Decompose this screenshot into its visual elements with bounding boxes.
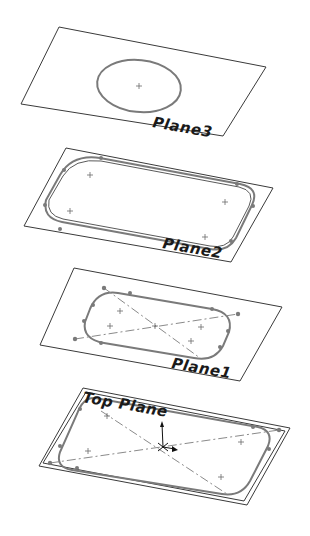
plane-2-outline bbox=[24, 148, 273, 262]
plane-3-outline bbox=[21, 27, 266, 136]
rounded-rectangle-inner bbox=[49, 161, 251, 247]
plane-3-label: Plane3 bbox=[151, 113, 214, 141]
cross-marks-icon bbox=[67, 172, 228, 240]
plane-2[interactable]: Plane2 bbox=[24, 148, 273, 262]
center-mark-icon bbox=[136, 83, 142, 89]
cad-viewport[interactable]: Plane3 Plane2 bbox=[0, 0, 310, 536]
rounded-rectangle-sketch[interactable] bbox=[45, 157, 254, 249]
plane-1[interactable]: Plane1 bbox=[40, 268, 282, 382]
centerline-diagonal-2[interactable] bbox=[50, 430, 279, 463]
centerline-diagonal-2[interactable] bbox=[75, 314, 238, 339]
sketch-points bbox=[43, 156, 255, 243]
plane-1-label: Plane1 bbox=[170, 354, 233, 382]
cross-marks-icon bbox=[107, 308, 204, 344]
plane-3[interactable]: Plane3 bbox=[21, 27, 266, 141]
top-plane-label: Top Plane bbox=[81, 388, 169, 421]
plane-1-outline bbox=[40, 268, 282, 381]
top-plane[interactable]: Top Plane bbox=[39, 388, 290, 505]
origin-icon[interactable] bbox=[158, 421, 178, 452]
plane-2-label: Plane2 bbox=[161, 234, 224, 262]
